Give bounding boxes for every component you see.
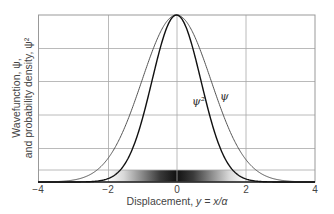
psi-curve bbox=[38, 15, 315, 182]
x-axis-label-text: Displacement, bbox=[127, 195, 196, 207]
grid bbox=[38, 15, 315, 182]
wavefunction-chart bbox=[0, 0, 334, 214]
y-axis-label: Wavefunction, ψ, and probability density… bbox=[10, 13, 34, 183]
psi-squared-curve bbox=[38, 15, 315, 182]
x-tick-minus4: −4 bbox=[32, 184, 43, 195]
y-axis-label-line1: Wavefunction, ψ, bbox=[10, 13, 22, 183]
x-tick-minus2: −2 bbox=[102, 184, 113, 195]
x-tick-2: 2 bbox=[243, 184, 249, 195]
psi-squared-label: ψ² bbox=[192, 95, 205, 108]
probability-density-band bbox=[38, 170, 315, 182]
x-axis-label: Displacement, y = x/α bbox=[127, 195, 228, 207]
y-axis-label-line2: and probability density, ψ² bbox=[22, 13, 34, 183]
psi-label: ψ bbox=[220, 90, 229, 103]
x-tick-4: 4 bbox=[312, 184, 318, 195]
x-tick-0: 0 bbox=[174, 184, 180, 195]
x-axis-label-variable: y = x/α bbox=[196, 195, 227, 207]
